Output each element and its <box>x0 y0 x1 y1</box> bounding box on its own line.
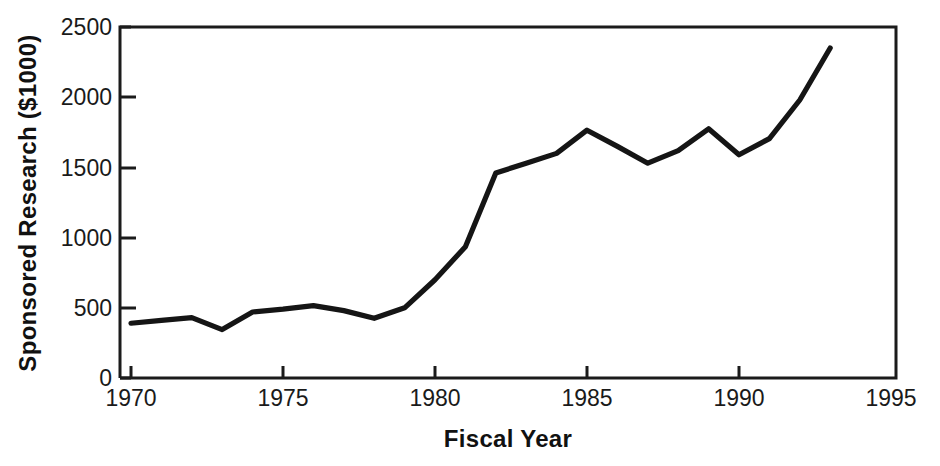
x-tick-label-1970: 1970 <box>105 385 156 411</box>
data-line-sponsored-research <box>131 48 830 330</box>
y-axis-title: Sponsored Research ($1000) <box>14 34 41 371</box>
x-tick-label-1975: 1975 <box>257 385 308 411</box>
plot-frame <box>120 27 896 378</box>
y-tick-label-1500: 1500 <box>61 155 112 181</box>
x-tick-label-1985: 1985 <box>561 385 612 411</box>
x-axis-title: Fiscal Year <box>444 425 572 452</box>
chart-figure: 2500 2000 1500 1000 500 0 1970 1975 1980… <box>0 0 940 466</box>
y-tick-label-2500: 2500 <box>61 14 112 40</box>
y-tick-label-1000: 1000 <box>61 225 112 251</box>
chart-canvas: 2500 2000 1500 1000 500 0 1970 1975 1980… <box>0 0 940 466</box>
x-tick-label-1980: 1980 <box>409 385 460 411</box>
x-tick-labels: 1970 1975 1980 1985 1990 1995 <box>105 385 916 411</box>
x-axis-ticks <box>131 366 739 378</box>
y-tick-label-2000: 2000 <box>61 84 112 110</box>
y-tick-label-500: 500 <box>74 295 112 321</box>
x-tick-label-1995: 1995 <box>865 385 916 411</box>
y-tick-labels: 2500 2000 1500 1000 500 0 <box>61 14 112 391</box>
x-tick-label-1990: 1990 <box>713 385 764 411</box>
